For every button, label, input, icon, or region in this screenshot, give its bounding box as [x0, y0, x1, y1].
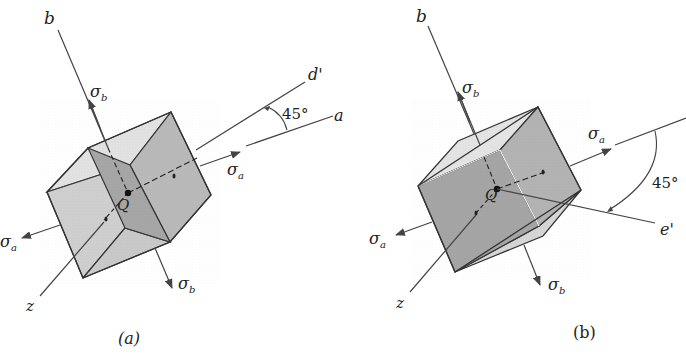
label-axis-d-prime: d'	[308, 65, 323, 84]
label-point-q: Q	[485, 186, 497, 204]
label-angle: 45°	[652, 174, 679, 192]
caption-a: (a)	[118, 329, 140, 348]
label-sigma-b-top: σb	[462, 78, 479, 99]
sigma-b-bottom-arrow	[524, 245, 540, 285]
label-sigma-b-top: σb	[90, 82, 107, 103]
sigma-a-left-arrow	[396, 222, 432, 235]
label-axis-b: b	[416, 6, 427, 26]
sigma-a-left-arrow	[22, 225, 60, 238]
caption-b: (b)	[573, 323, 596, 342]
label-axis-e-prime: e'	[660, 220, 674, 239]
label-axis-a: a	[334, 106, 344, 125]
sigma-a-right-arrow	[570, 149, 611, 166]
label-axis-z: z	[395, 294, 404, 312]
panel-a: b d' 45° a Q σb σa σa σb z (a)	[0, 8, 344, 348]
stress-element-figure: b d' 45° a Q σb σa σa σb z (a)	[0, 0, 686, 356]
panel-b: b σb σa 45° Q e' σa σb z (b)	[369, 6, 686, 342]
label-axis-z: z	[25, 297, 34, 315]
label-angle: 45°	[282, 105, 309, 123]
angle-arc	[609, 131, 657, 210]
label-sigma-a-left: σa	[369, 229, 386, 250]
label-point-q: Q	[117, 196, 129, 214]
label-axis-b: b	[44, 8, 55, 28]
label-sigma-a-left: σa	[0, 232, 17, 253]
label-sigma-b-bottom: σb	[548, 275, 565, 296]
sigma-b-bottom-arrow	[155, 248, 172, 288]
axis-a-line	[615, 118, 686, 145]
label-sigma-a-right: σa	[588, 124, 605, 145]
label-sigma-b-bottom: σb	[178, 274, 195, 295]
label-sigma-a-right: σa	[227, 160, 244, 181]
